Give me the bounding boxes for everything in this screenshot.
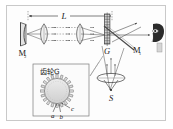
inset-leader-line	[90, 56, 103, 76]
label-mirror-M2-subscript: 2	[24, 54, 26, 59]
source-assembly: S	[97, 46, 125, 103]
inset-label-a: a	[51, 112, 55, 120]
label-source-S: S	[109, 93, 114, 103]
concave-mirror-M2: M 2	[19, 23, 27, 59]
label-toothed-wheel-G: G	[104, 46, 110, 56]
label-mirror-M1-subscript: 1	[139, 51, 141, 56]
observer-eye	[152, 23, 164, 52]
inset-label-b: b	[60, 113, 64, 121]
distance-L-dimension: L	[28, 11, 112, 21]
optics-diagram: L M 2	[0, 0, 173, 129]
figure-root: L M 2	[0, 0, 173, 129]
inset-gear-detail: 齿轮G	[33, 64, 89, 121]
label-distance-L: L	[60, 11, 66, 21]
